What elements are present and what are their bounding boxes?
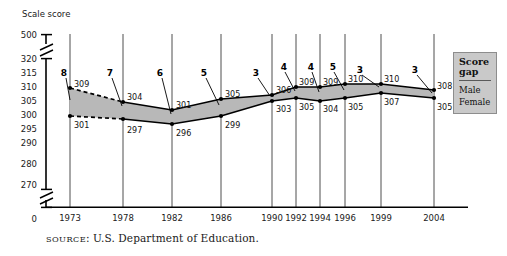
y-tick-0: 0 <box>32 214 37 224</box>
gap-label-1986: 5 <box>201 68 207 78</box>
legend-title-line2: gap <box>459 67 491 77</box>
x-tick-1978: 1978 <box>112 213 134 223</box>
x-tick-1982: 1982 <box>161 213 183 223</box>
female-value-1978: 297 <box>127 126 142 135</box>
male-point-1990 <box>270 93 274 97</box>
x-tick-1990: 1990 <box>261 213 283 223</box>
male-value-1999: 310 <box>384 75 399 84</box>
male-value-2004: 308 <box>437 82 452 91</box>
female-point-1996 <box>343 96 347 100</box>
break-slash-upper-2 <box>40 50 53 56</box>
female-value-1982: 296 <box>176 129 191 138</box>
y-tick-305: 305 <box>21 96 37 106</box>
male-point-1994 <box>318 85 322 89</box>
x-tick-1986: 1986 <box>210 213 232 223</box>
axis-break-upper <box>40 44 53 56</box>
chart-canvas: Scale score 500 320 315 310 305 300 295 … <box>0 0 507 256</box>
male-value-1990: 306 <box>276 86 291 95</box>
female-value-1999: 307 <box>384 98 399 107</box>
y-tick-270: 270 <box>21 180 37 190</box>
gap-label-1978: 7 <box>107 68 113 78</box>
x-tick-labels: 1973 1978 1982 1986 1990 1992 1994 1996 … <box>59 213 445 223</box>
x-tick-1994: 1994 <box>309 213 331 223</box>
y-tick-labels: 500 320 315 310 305 300 295 290 280 270 … <box>21 30 37 224</box>
female-point-2004 <box>432 96 436 100</box>
nces-gender-gap-chart: Scale score 500 320 315 310 305 300 295 … <box>0 0 507 256</box>
male-value-1992: 309 <box>299 78 314 87</box>
gridlines <box>70 34 434 207</box>
gap-label-1982: 6 <box>157 68 163 78</box>
source-label: SOURCE <box>46 234 86 244</box>
legend-title: Score gap <box>459 57 491 77</box>
female-point-1994 <box>318 99 322 103</box>
legend-divider <box>459 80 491 81</box>
male-value-1973: 309 <box>74 80 89 89</box>
female-value-1992: 305 <box>299 103 314 112</box>
y-tick-295: 295 <box>21 124 37 134</box>
female-point-1982 <box>170 122 174 126</box>
source-text: : U.S. Department of Education. <box>86 232 259 244</box>
female-point-1992 <box>294 96 298 100</box>
y-tick-280: 280 <box>21 159 37 169</box>
y-axis-title: Scale score <box>22 9 70 19</box>
male-point-1986 <box>219 97 223 101</box>
female-point-1978 <box>121 117 125 121</box>
break-slash-lower-1 <box>40 192 53 198</box>
female-value-2004: 305 <box>437 103 452 112</box>
x-tick-1992: 1992 <box>285 213 307 223</box>
y-tick-500: 500 <box>21 30 37 40</box>
y-tick-310: 310 <box>21 82 37 92</box>
y-tick-320: 320 <box>21 54 37 64</box>
male-value-1996: 310 <box>348 75 363 84</box>
female-value-1996: 305 <box>348 103 363 112</box>
legend-item-female: Female <box>459 96 491 108</box>
male-point-2004 <box>432 88 436 92</box>
y-tick-290: 290 <box>21 138 37 148</box>
male-point-1996 <box>343 82 347 86</box>
gap-label-1999: 3 <box>357 65 363 75</box>
gap-label-2004: 3 <box>412 65 418 75</box>
female-value-1990: 303 <box>276 105 291 114</box>
legend-item-male: Male <box>459 84 491 96</box>
female-point-1990 <box>270 99 274 103</box>
break-slash-upper-1 <box>40 44 53 50</box>
gap-leader-1990 <box>258 78 270 96</box>
source-note: SOURCE: U.S. Department of Education. <box>46 232 259 244</box>
female-point-1973 <box>68 114 72 118</box>
male-point-1992 <box>294 85 298 89</box>
gap-label-1996: 5 <box>330 62 336 72</box>
y-tick-315: 315 <box>21 68 37 78</box>
axis-lines <box>46 34 468 208</box>
female-point-1986 <box>219 114 223 118</box>
female-point-1999 <box>379 91 383 95</box>
female-value-1994: 304 <box>323 105 338 114</box>
female-value-1973: 301 <box>74 121 89 130</box>
y-tick-300: 300 <box>21 110 37 120</box>
male-value-1994: 309 <box>323 78 338 87</box>
male-value-1986: 305 <box>225 90 240 99</box>
x-tick-1999: 1999 <box>370 213 392 223</box>
gap-value-labels: 8 7 6 5 3 4 4 5 3 3 <box>61 62 418 78</box>
gap-label-1992: 4 <box>281 62 287 72</box>
x-tick-2004: 2004 <box>423 213 445 223</box>
male-point-1999 <box>379 82 383 86</box>
gap-label-1990: 3 <box>253 68 259 78</box>
male-value-1982: 301 <box>176 101 191 110</box>
x-tick-1996: 1996 <box>334 213 356 223</box>
male-value-1978: 304 <box>127 93 142 102</box>
gap-label-1973: 8 <box>61 68 67 78</box>
chart-legend: Score gap Male Female <box>453 52 497 114</box>
gap-label-1994: 4 <box>308 62 314 72</box>
female-value-1986: 299 <box>225 121 240 130</box>
x-tick-1973: 1973 <box>59 213 81 223</box>
